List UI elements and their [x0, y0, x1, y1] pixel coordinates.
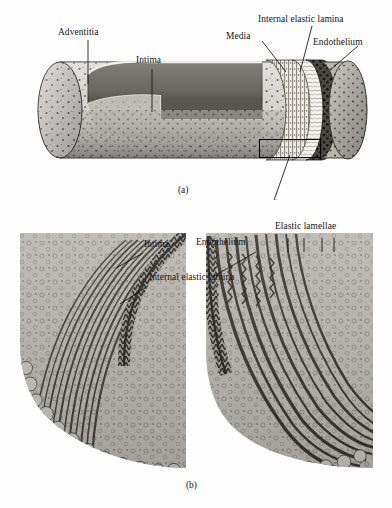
micrograph-right-half — [204, 231, 392, 475]
label-b-elastic-lamellae: Elastic lamellae — [275, 222, 336, 232]
micrograph-left-half — [18, 231, 190, 477]
label-b-intima: Intima — [144, 240, 169, 250]
inset-region-box — [259, 139, 321, 158]
leader-inset-arrow — [272, 155, 290, 200]
label-adventitia: Adventitia — [58, 28, 99, 38]
panel-b: Intima Internal elastic lamina Endotheli… — [0, 200, 392, 508]
label-b-endothelium: Endothelium — [196, 238, 246, 248]
caption-panel-a: (a) — [178, 185, 188, 195]
label-b-internal-elastic-lamina: Internal elastic lamina — [149, 273, 235, 283]
label-internal-elastic-lamina: Internal elastic lamina — [258, 15, 344, 25]
caption-panel-b: (b) — [186, 480, 197, 490]
label-endothelium: Endothelium — [313, 38, 363, 48]
label-media: Media — [226, 32, 250, 42]
label-intima: Intima — [136, 56, 161, 66]
figure-artery-wall: Adventitia Intima Media Internal elastic… — [0, 0, 392, 508]
panel-a: Adventitia Intima Media Internal elastic… — [0, 0, 392, 200]
